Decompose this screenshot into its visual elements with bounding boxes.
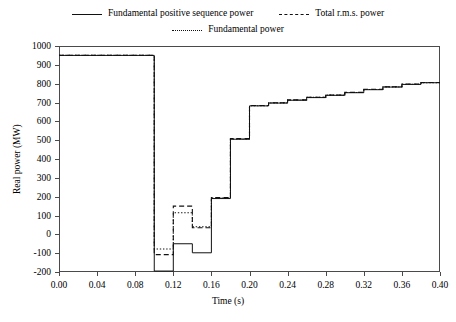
x-tick [59,272,60,276]
x-tick [173,272,174,276]
y-tick-label: 400 [0,154,51,164]
x-tick-label: 0.08 [127,280,144,290]
x-tick-label: 0.16 [203,280,220,290]
x-tick-label: 0.20 [241,280,258,290]
legend-row: Fundamental positive sequence powerTotal… [0,6,456,22]
x-tick [364,272,365,276]
legend-item: Total r.m.s. power [279,9,384,19]
series-line-solid [59,55,440,271]
x-tick-label: 0.40 [432,280,449,290]
y-tick [55,84,59,85]
series-line-dashed [59,55,440,254]
y-tick-label: -200 [0,267,51,277]
y-tick [55,216,59,217]
dashed-line-swatch [279,10,309,19]
y-tick [55,65,59,66]
x-tick-label: 0.28 [317,280,334,290]
x-tick-label: 0.24 [279,280,296,290]
y-tick-label: -100 [0,248,51,258]
y-tick-label: 200 [0,192,51,202]
legend-label: Fundamental positive sequence power [108,9,253,19]
y-tick-label: 500 [0,135,51,145]
y-tick [55,178,59,179]
x-tick [440,272,441,276]
y-tick [55,197,59,198]
y-tick-label: 700 [0,98,51,108]
y-tick-label: 600 [0,116,51,126]
x-tick-label: 0.04 [89,280,106,290]
x-tick-label: 0.00 [51,280,68,290]
y-tick [55,103,59,104]
x-tick [288,272,289,276]
x-axis-title: Time (s) [0,296,456,306]
y-tick [55,46,59,47]
legend-item: Fundamental power [172,25,284,35]
legend-label: Total r.m.s. power [315,9,384,19]
y-tick-label: 0 [0,229,51,239]
y-tick [55,253,59,254]
y-axis-title: Real power (MW) [12,124,22,194]
solid-line-swatch [72,10,102,19]
x-tick [97,272,98,276]
chart-legend: Fundamental positive sequence powerTotal… [0,6,456,38]
y-tick [55,121,59,122]
y-tick-label: 100 [0,211,51,221]
x-tick [135,272,136,276]
x-tick [211,272,212,276]
x-tick [402,272,403,276]
x-tick-label: 0.36 [394,280,411,290]
dotted-line-swatch [172,26,202,35]
y-tick-label: 1000 [0,41,51,51]
y-tick [55,234,59,235]
y-tick-label: 800 [0,79,51,89]
series-line-dotted [59,55,440,249]
chart-figure: Fundamental positive sequence powerTotal… [0,0,456,322]
y-tick-label: 900 [0,60,51,70]
data-series-layer [59,46,440,272]
plot-area [59,46,440,272]
x-tick [326,272,327,276]
legend-label: Fundamental power [208,25,284,35]
y-tick [55,140,59,141]
x-tick [250,272,251,276]
legend-row: Fundamental power [0,22,456,38]
y-tick [55,159,59,160]
x-tick-label: 0.12 [165,280,182,290]
legend-item: Fundamental positive sequence power [72,9,253,19]
y-tick-label: 300 [0,173,51,183]
x-tick-label: 0.32 [355,280,372,290]
